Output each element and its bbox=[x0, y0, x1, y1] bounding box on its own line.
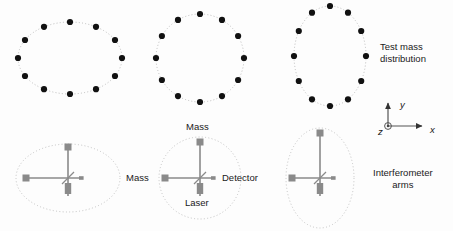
diagram-canvas bbox=[0, 0, 453, 231]
label-laser: Laser bbox=[185, 197, 209, 209]
test-masses-3 bbox=[291, 3, 369, 109]
axis-label-z: z bbox=[378, 126, 383, 137]
interferometer-3 bbox=[286, 128, 354, 228]
label-mass-top: Mass bbox=[186, 121, 209, 133]
label-detector: Detector bbox=[222, 172, 258, 184]
caption-test-mass-distribution: Test mass distribution bbox=[380, 41, 426, 64]
test-masses-1 bbox=[15, 19, 125, 97]
interferometer-1 bbox=[16, 144, 120, 213]
detector-2 bbox=[211, 176, 216, 180]
caption-test-mass-line1: Test mass bbox=[380, 41, 426, 53]
test-mass-left-3 bbox=[289, 175, 296, 182]
ring-outline-1 bbox=[18, 22, 122, 94]
test-mass-left-1 bbox=[23, 175, 30, 182]
ring-outline-3 bbox=[294, 6, 366, 106]
detector-1 bbox=[79, 176, 84, 180]
axis-label-x: x bbox=[430, 124, 435, 135]
test-mass-top-2 bbox=[197, 139, 204, 146]
ring-outline-2 bbox=[156, 14, 244, 102]
caption-interferometer-arms: Interferometer arms bbox=[373, 167, 433, 190]
caption-test-mass-line2: distribution bbox=[380, 53, 426, 65]
test-mass-top-3 bbox=[317, 130, 324, 137]
test-mass-ring-2 bbox=[153, 11, 247, 105]
label-mass-left: Mass bbox=[126, 172, 149, 184]
test-mass-ring-1 bbox=[15, 19, 125, 97]
laser-3 bbox=[317, 183, 323, 194]
laser-2 bbox=[197, 183, 203, 194]
axis-label-y: y bbox=[400, 99, 405, 110]
test-masses-2 bbox=[153, 11, 247, 105]
test-mass-left-2 bbox=[162, 175, 169, 182]
test-mass-ring-3 bbox=[291, 3, 369, 109]
laser-1 bbox=[65, 183, 71, 194]
test-mass-top-1 bbox=[65, 144, 72, 151]
caption-interferometer-line2: arms bbox=[373, 179, 433, 191]
detector-3 bbox=[331, 176, 336, 180]
figure-root: Test mass distribution Interferometer ar… bbox=[0, 0, 453, 231]
z-axis-dot-icon bbox=[387, 125, 390, 128]
caption-interferometer-line1: Interferometer bbox=[373, 167, 433, 179]
